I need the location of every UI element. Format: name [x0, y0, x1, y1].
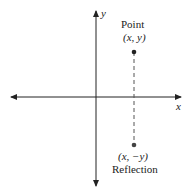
x-axis-label: x [176, 101, 181, 112]
coordinate-plane [0, 0, 194, 190]
reflection-dot [132, 143, 137, 148]
point-title: Point [121, 19, 144, 30]
reflection-title: Reflection [112, 164, 158, 175]
y-axis-label: y [101, 8, 106, 19]
reflection-diagram: y x Point (x, y) (x, −y) Reflection [0, 0, 194, 190]
point-coords: (x, y) [123, 32, 146, 43]
point-dot [132, 50, 137, 55]
reflection-coords: (x, −y) [118, 151, 148, 162]
